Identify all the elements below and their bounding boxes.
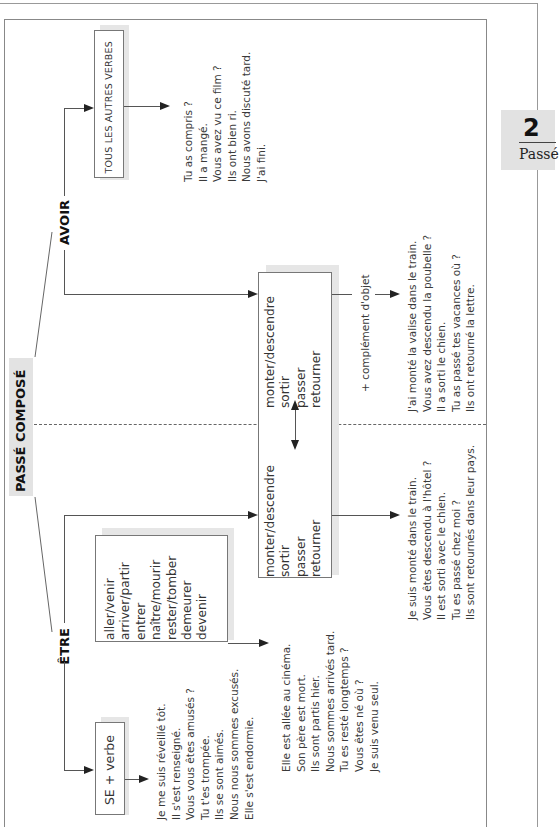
arrow-up-icon bbox=[291, 400, 299, 410]
other-verbs-box: TOUS LES AUTRES VERBES bbox=[94, 30, 124, 178]
etre-to-se bbox=[64, 770, 86, 771]
avoir-movement-verbs: monter/descendre sortir passer retourner bbox=[263, 278, 325, 408]
etre-movement-to-examples bbox=[332, 515, 392, 516]
arrow-right-icon bbox=[390, 511, 400, 519]
etre-trunk-bottom bbox=[64, 662, 65, 770]
motion-to-examples bbox=[228, 643, 261, 644]
arrow-right-icon bbox=[390, 290, 400, 298]
arrow-right-icon bbox=[160, 102, 170, 110]
arrow-right-icon bbox=[139, 775, 149, 783]
avoir-trunk-top bbox=[64, 108, 65, 196]
se-verb-examples: Je me suis réveillé tôt. Il s'est rensei… bbox=[154, 660, 256, 820]
arrow-right-icon bbox=[248, 511, 258, 519]
avoir-to-others bbox=[64, 108, 86, 109]
complement-label: + complément d'objet bbox=[358, 272, 373, 392]
motion-verbs-examples: Elle est allée au cinéma. Son père est m… bbox=[279, 642, 381, 772]
other-verbs-label: TOUS LES AUTRES VERBES bbox=[103, 41, 114, 174]
arrow-right-icon bbox=[84, 104, 94, 112]
avoir-trunk-bottom bbox=[64, 250, 65, 295]
arrow-down-icon bbox=[291, 440, 299, 450]
other-verbs-examples: Tu as compris ? Il a mangé. Vous avez vu… bbox=[181, 34, 269, 182]
arrow-right-icon bbox=[248, 290, 258, 298]
others-to-examples bbox=[124, 106, 161, 107]
arrow-right-icon bbox=[84, 766, 94, 774]
etre-movement-verbs: monter/descendre sortir passer retourner bbox=[263, 447, 325, 577]
se-verb-box: SE + verbe bbox=[95, 722, 125, 815]
motion-verbs: aller/venir arriver/partir entrer naître… bbox=[103, 540, 211, 640]
etre-to-movement bbox=[64, 515, 249, 516]
se-verb-label: SE + verbe bbox=[102, 735, 117, 805]
avoir-to-movement bbox=[64, 294, 249, 295]
movement-to-complement bbox=[332, 294, 352, 295]
avoir-movement-examples: J'ai monté la valise dans le train. Vous… bbox=[405, 232, 478, 412]
etre-label: ÊTRE bbox=[57, 628, 72, 665]
arrow-right-icon bbox=[259, 639, 269, 647]
double-arrow-shaft bbox=[295, 410, 296, 440]
avoir-label: AVOIR bbox=[57, 200, 72, 245]
etre-trunk-top bbox=[64, 515, 65, 623]
etre-movement-examples: Je suis monté dans le train. Vous êtes d… bbox=[405, 440, 478, 620]
